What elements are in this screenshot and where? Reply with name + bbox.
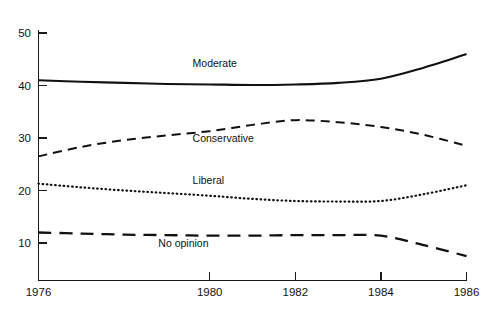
chart-container: 1020304050 19761980198219841986 Moderate… [0,0,492,315]
series-line-moderate [39,54,467,85]
x-tick-label-1984: 1984 [368,286,394,298]
y-tick-group: 1020304050 [18,27,47,249]
series-line-liberal [39,184,467,202]
y-tick-label-30: 30 [18,132,31,144]
x-tick-label-1976: 1976 [26,286,52,298]
y-tick-label-40: 40 [18,80,31,92]
x-tick-label-1980: 1980 [197,286,223,298]
series-label-liberal: Liberal [193,174,225,186]
series-line-no-opinion [39,233,467,257]
y-tick-label-10: 10 [18,237,31,249]
series-label-no-opinion: No opinion [158,237,208,249]
x-tick-group: 19761980198219841986 [26,272,480,298]
x-tick-label-1986: 1986 [454,286,480,298]
series-label-conservative: Conservative [193,132,254,144]
line-chart: 1020304050 19761980198219841986 Moderate… [0,0,492,315]
series-label-moderate: Moderate [193,57,238,69]
x-tick-label-1982: 1982 [283,286,309,298]
y-tick-label-20: 20 [18,185,31,197]
y-tick-label-50: 50 [18,27,31,39]
axes [39,30,467,281]
series-group [39,54,467,256]
